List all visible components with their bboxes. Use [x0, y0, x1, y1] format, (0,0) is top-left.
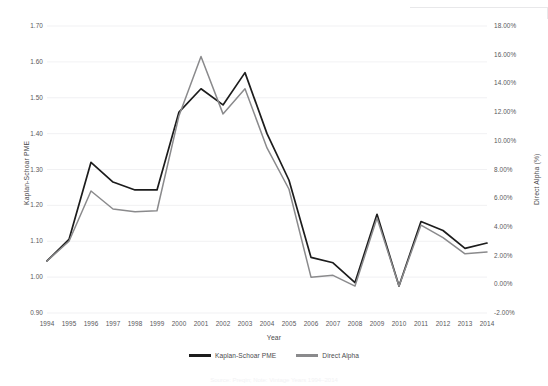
- y-axis-left-tick: 1.70: [12, 22, 43, 29]
- y-axis-left-tick: 1.00: [12, 273, 43, 280]
- y-axis-right-tick: 8.00%: [494, 166, 534, 173]
- y-axis-left-title: Kaplan-Schoar PME: [23, 141, 30, 205]
- y-axis-right-tick: 6.00%: [494, 194, 534, 201]
- y-axis-left-tick: 0.90: [12, 309, 43, 316]
- series-line: [47, 73, 487, 286]
- series-line: [47, 56, 487, 286]
- legend-color-swatch: [189, 354, 211, 356]
- legend-label: Kaplan-Schoar PME: [215, 352, 276, 359]
- y-axis-left-tick: 1.50: [12, 94, 43, 101]
- y-axis-right-tick: 4.00%: [494, 223, 534, 230]
- chart-figure: 0.901.001.101.201.301.401.501.601.70 -2.…: [0, 0, 548, 386]
- x-axis-title: Year: [0, 334, 548, 341]
- y-axis-left-tick: 1.10: [12, 237, 43, 244]
- y-axis-right-tick: -2.00%: [494, 309, 534, 316]
- series-lines-group: [47, 56, 487, 286]
- y-axis-right-tick: 18.00%: [494, 22, 534, 29]
- chart-legend: Kaplan-Schoar PMEDirect Alpha: [0, 352, 548, 359]
- legend-color-swatch: [296, 354, 318, 356]
- y-axis-right-tick: 16.00%: [494, 51, 534, 58]
- y-axis-right-tick: 14.00%: [494, 79, 534, 86]
- legend-item[interactable]: Direct Alpha: [296, 352, 359, 359]
- legend-item[interactable]: Kaplan-Schoar PME: [189, 352, 276, 359]
- y-axis-right-tick: 2.00%: [494, 252, 534, 259]
- y-axis-right-title: Direct Alpha (%): [533, 153, 540, 205]
- y-axis-left-tick: 1.40: [12, 130, 43, 137]
- y-axis-right-tick: 10.00%: [494, 137, 534, 144]
- y-axis-right-tick: 0.00%: [494, 280, 534, 287]
- gridlines-group: [47, 26, 487, 313]
- legend-label: Direct Alpha: [322, 352, 359, 359]
- x-axis-tick: 2014: [474, 320, 500, 327]
- figure-caption: Source: Preqin; Note: Vintage Years 1994…: [0, 377, 548, 383]
- line-chart-plot: [0, 0, 548, 386]
- y-axis-right-tick: 12.00%: [494, 108, 534, 115]
- y-axis-left-tick: 1.60: [12, 58, 43, 65]
